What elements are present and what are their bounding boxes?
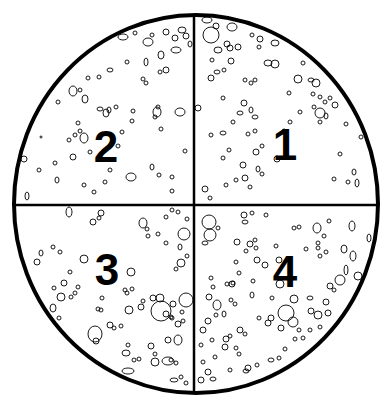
quadrant-2-label: 2	[94, 122, 118, 171]
quadrant-3-label: 3	[95, 245, 119, 294]
quadrant-4-label: 4	[273, 247, 298, 296]
background	[0, 0, 391, 404]
quadrant-circle-diagram: 1 2 3 4	[0, 0, 391, 404]
quadrant-1-label: 1	[273, 120, 297, 169]
